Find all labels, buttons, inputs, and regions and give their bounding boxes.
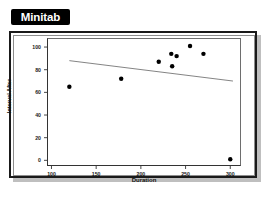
x-axis-ticks — [51, 166, 230, 169]
scatter-points — [67, 44, 232, 162]
x-axis-title: Duration — [47, 177, 241, 183]
y-axis-ticks — [44, 47, 47, 160]
y-tick-label: 40 — [27, 112, 41, 118]
y-tick-label: 80 — [27, 67, 41, 73]
y-tick-label: 100 — [27, 44, 41, 50]
chart-svg-layer — [0, 0, 274, 198]
regression-line — [69, 61, 233, 81]
y-tick-label: 20 — [27, 135, 41, 141]
minitab-figure-panel: Minitab 020406080100 100150200250300 Dur… — [0, 0, 274, 198]
y-tick-label: 0 — [27, 157, 41, 163]
y-tick-label: 60 — [27, 89, 41, 95]
y-axis-title: Interval After — [6, 61, 12, 131]
